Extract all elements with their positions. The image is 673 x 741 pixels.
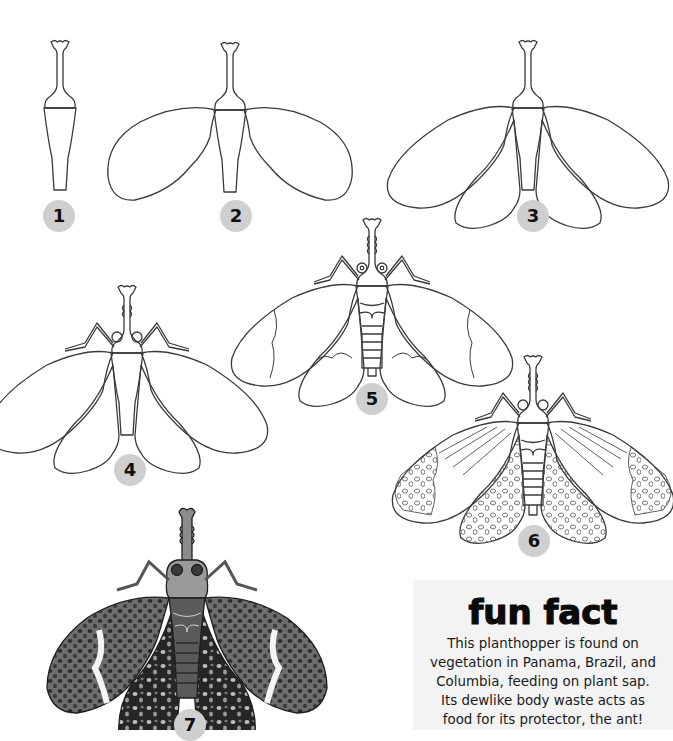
step-5-badge: 5 [356,383,388,415]
fun-fact-title: fun fact [413,594,673,630]
step-2-drawing [108,43,352,201]
step-3-badge: 3 [517,200,549,232]
fun-fact-line: food for its protector, the ant! [413,710,673,729]
fun-fact-panel: fun fact This planthopper is found on ve… [413,580,673,730]
fun-fact-line: This planthopper is found on [413,634,673,653]
step-6-drawing [392,356,673,544]
step-4-badge: 4 [114,454,146,486]
fun-fact-line: Its dewlike body waste acts as [413,691,673,710]
step-5-drawing [231,219,512,407]
step-6-badge: 6 [518,525,550,557]
step-2-badge: 2 [220,200,252,232]
step-7-badge: 7 [174,709,206,741]
step-1-badge: 1 [43,200,75,232]
fun-fact-line: vegetation in Panama, Brazil, and [413,653,673,672]
step-7-drawing [47,508,327,730]
step-1-drawing [44,41,76,191]
fun-fact-line: Columbia, feeding on plant sap. [413,672,673,691]
fun-fact-text: This planthopper is found on vegetation … [413,634,673,729]
step-4-drawing [0,286,268,474]
